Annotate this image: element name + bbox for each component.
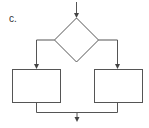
left-merge-line	[37, 103, 118, 113]
right-branch-line	[99, 40, 118, 68]
left-process-box	[13, 70, 61, 103]
exit-arrow-head	[75, 117, 80, 122]
right-branch-arrow-head	[115, 64, 120, 69]
flowchart	[0, 0, 149, 128]
left-branch-arrow-head	[34, 64, 39, 69]
right-process-box	[95, 70, 143, 103]
left-branch-line	[37, 40, 55, 68]
entry-arrow-head	[74, 13, 79, 18]
decision-diamond	[55, 18, 99, 62]
